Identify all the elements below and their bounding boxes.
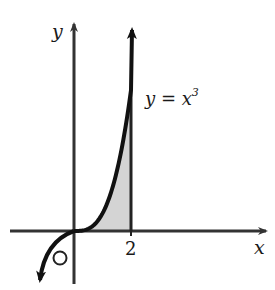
graph-figure (0, 0, 275, 290)
equation-exponent: 3 (192, 86, 199, 99)
cubic-curve-lower-branch (40, 231, 74, 280)
equation-text: y = x (145, 88, 192, 109)
origin-label-o (54, 252, 67, 265)
x-tick-label-2: 2 (125, 238, 136, 259)
x-axis-label: x (254, 236, 265, 258)
curve-equation-label: y = x3 (145, 88, 199, 109)
y-axis-label: y (52, 20, 63, 42)
